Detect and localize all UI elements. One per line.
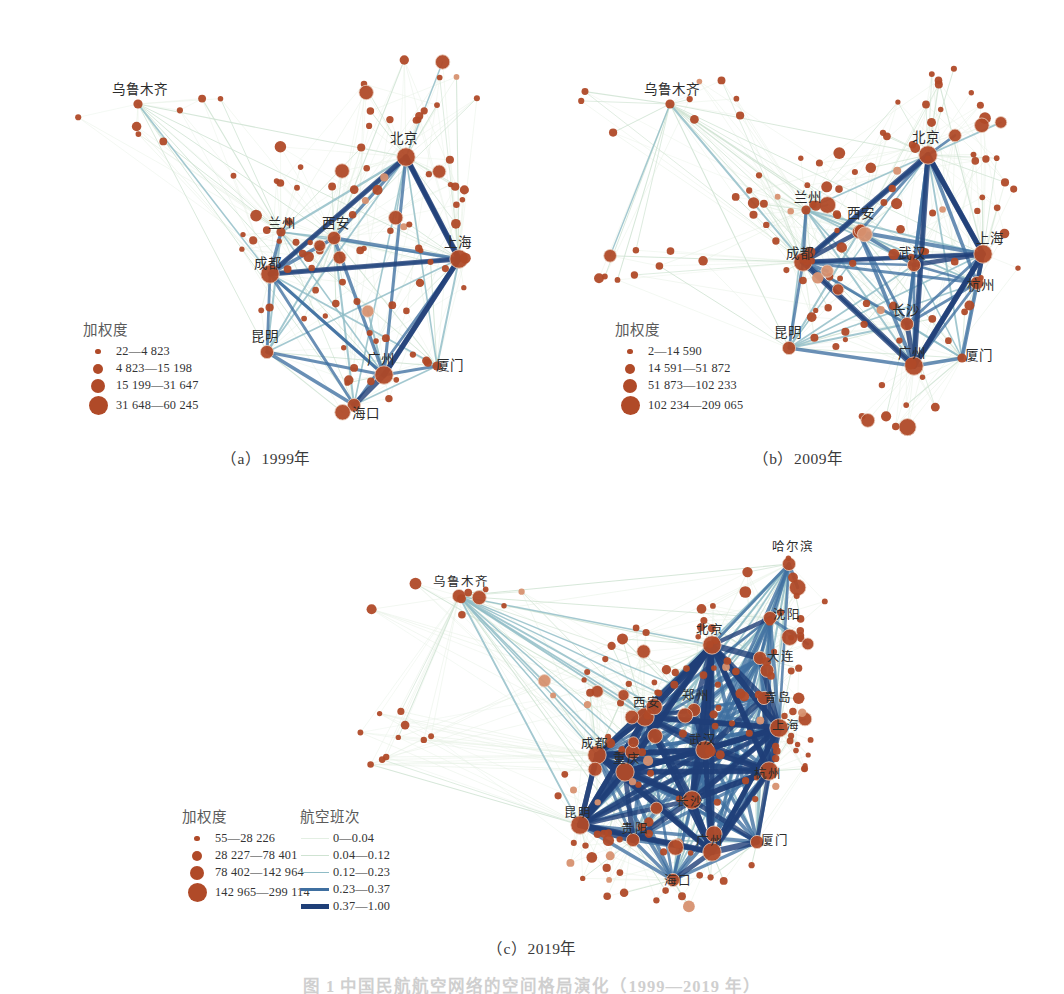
city-label-西安: 西安 — [322, 216, 350, 231]
legend-node-row: 51 873—102 233 — [615, 377, 743, 394]
city-label-乌鲁木齐: 乌鲁木齐 — [644, 82, 700, 97]
legend-edge-line-icon — [300, 855, 330, 856]
legend-node-row: 78 402—142 964 — [182, 864, 310, 881]
legend-rows: 0—0.040.04—0.120.12—0.230.23—0.370.37—1.… — [300, 830, 390, 915]
dot-icon — [91, 379, 105, 393]
legend-node-row: 4 823—15 198 — [83, 360, 199, 377]
legend-weighted-degree-2019: 加权度 55—28 22628 227—78 40178 402—142 964… — [182, 805, 310, 903]
legend-edge-row: 0.12—0.23 — [300, 864, 390, 881]
city-label-成都: 成都 — [254, 256, 282, 271]
panel-2009: 乌鲁木齐北京兰州西安成都上海武汉杭州长沙昆明广州厦门 — [532, 0, 1064, 470]
city-label-青岛: 青岛 — [764, 690, 792, 705]
dot-icon — [95, 349, 101, 355]
city-label-昆明: 昆明 — [251, 329, 279, 344]
line-icon — [301, 888, 329, 891]
panel-caption-b: （b）2009年 — [532, 446, 1064, 468]
legend-node-row: 142 965—299 114 — [182, 881, 310, 903]
legend-label: 78 402—142 964 — [215, 865, 304, 880]
city-label-上海: 上海 — [976, 231, 1004, 246]
city-label-北京: 北京 — [390, 131, 418, 146]
legend-edge-line-icon — [300, 838, 330, 839]
dot-icon — [192, 851, 202, 861]
legend-label: 142 965—299 114 — [215, 885, 310, 900]
city-label-大连: 大连 — [767, 649, 795, 664]
dot-icon — [625, 364, 635, 374]
legend-node-row: 102 234—209 065 — [615, 394, 743, 416]
city-label-长沙: 长沙 — [676, 795, 704, 809]
city-label-兰州: 兰州 — [794, 190, 822, 205]
city-label-成都: 成都 — [581, 737, 609, 751]
legend-node-dot-icon — [182, 866, 212, 880]
legend-rows: 2—14 59014 591—51 87251 873—102 233102 2… — [615, 343, 743, 416]
legend-edge-row: 0—0.04 — [300, 830, 390, 847]
city-label-武汉: 武汉 — [898, 246, 926, 261]
legend-label: 55—28 226 — [215, 831, 275, 846]
legend-node-row: 15 199—31 647 — [83, 377, 199, 394]
city-label-广州: 广州 — [898, 346, 926, 361]
dot-icon — [621, 396, 640, 415]
legend-node-row: 22—4 823 — [83, 343, 199, 360]
city-label-上海: 上海 — [772, 718, 800, 733]
legend-node-row: 14 591—51 872 — [615, 360, 743, 377]
legend-edge-row: 0.23—0.37 — [300, 881, 390, 898]
legend-weighted-degree-1999: 加权度 22—4 8234 823—15 19815 199—31 64731 … — [83, 318, 199, 416]
line-icon — [301, 838, 329, 839]
legend-label: 0.12—0.23 — [333, 865, 390, 880]
legend-label: 0.04—0.12 — [333, 848, 390, 863]
legend-label: 102 234—209 065 — [648, 398, 743, 413]
city-label-北京: 北京 — [696, 623, 724, 637]
legend-node-dot-icon — [615, 379, 645, 393]
city-label-海口: 海口 — [664, 873, 692, 888]
legend-node-dot-icon — [83, 364, 113, 374]
line-icon — [301, 904, 329, 909]
line-icon — [301, 872, 329, 874]
legend-label: 0.23—0.37 — [333, 882, 390, 897]
legend-edge-line-icon — [300, 888, 330, 891]
legend-label: 28 227—78 401 — [215, 848, 298, 863]
legend-label: 0—0.04 — [333, 831, 374, 846]
legend-label: 14 591—51 872 — [648, 361, 731, 376]
legend-label: 51 873—102 233 — [648, 378, 737, 393]
city-label-北京: 北京 — [912, 130, 940, 145]
legend-title: 加权度 — [615, 318, 743, 339]
city-label-厦门: 厦门 — [761, 833, 789, 848]
legend-node-dot-icon — [83, 396, 113, 415]
city-label-西安: 西安 — [847, 206, 875, 221]
legend-node-row: 2—14 590 — [615, 343, 743, 360]
legend-flight-frequency-2019: 航空班次 0—0.040.04—0.120.12—0.230.23—0.370.… — [300, 805, 390, 915]
city-label-杭州: 杭州 — [754, 766, 782, 781]
legend-edge-row: 0.37—1.00 — [300, 898, 390, 915]
city-label-海口: 海口 — [352, 406, 380, 421]
legend-label: 22—4 823 — [116, 344, 170, 359]
legend-label: 2—14 590 — [648, 344, 702, 359]
city-label-成都: 成都 — [786, 246, 814, 261]
legend-node-dot-icon — [182, 851, 212, 861]
dot-icon — [194, 836, 200, 842]
city-label-昆明: 昆明 — [774, 325, 802, 340]
legend-title: 加权度 — [182, 805, 310, 826]
legend-title: 加权度 — [83, 318, 199, 339]
legend-label: 31 648—60 245 — [116, 398, 199, 413]
city-label-贵阳: 贵阳 — [621, 822, 649, 836]
legend-node-dot-icon — [615, 364, 645, 374]
legend-node-dot-icon — [83, 379, 113, 393]
legend-node-row: 31 648—60 245 — [83, 394, 199, 416]
city-label-广州: 广州 — [367, 352, 395, 367]
legend-rows: 22—4 8234 823—15 19815 199—31 64731 648—… — [83, 343, 199, 416]
city-label-昆明: 昆明 — [564, 806, 592, 820]
city-label-兰州: 兰州 — [268, 216, 296, 231]
legend-node-dot-icon — [182, 883, 212, 902]
city-label-乌鲁木齐: 乌鲁木齐 — [112, 82, 168, 97]
panel-caption-a: （a）1999年 — [0, 446, 532, 468]
legend-node-row: 55—28 226 — [182, 830, 310, 847]
city-label-哈尔滨: 哈尔滨 — [772, 539, 814, 554]
dot-icon — [188, 883, 207, 902]
legend-node-dot-icon — [83, 349, 113, 355]
legend-node-row: 28 227—78 401 — [182, 847, 310, 864]
legend-node-dot-icon — [182, 836, 212, 842]
legend-edge-line-icon — [300, 872, 330, 874]
legend-label: 4 823—15 198 — [116, 361, 192, 376]
legend-node-dot-icon — [615, 349, 645, 355]
city-label-厦门: 厦门 — [436, 358, 464, 373]
city-label-郑州: 郑州 — [682, 688, 710, 703]
